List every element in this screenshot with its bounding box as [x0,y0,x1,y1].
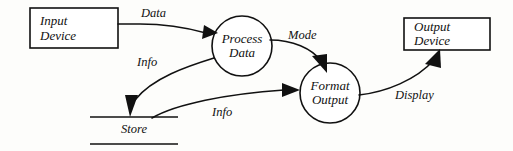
data-store-store[interactable]: Store [90,117,178,144]
process-format-output[interactable]: Format Output [300,63,360,123]
diagram-canvas: Input Device Output Device Process Data … [0,0,513,151]
flow-display-arrowhead [425,49,441,68]
process-process-data[interactable]: Process Data [212,16,272,76]
format-output-label-line2: Output [312,92,349,107]
flow-data[interactable]: Data [118,6,218,39]
process-data-label-line1: Process [221,31,263,46]
output-device-label-line2: Device [413,33,450,48]
flow-data-label: Data [140,6,166,20]
external-entity-input-device[interactable]: Input Device [30,8,118,48]
external-entity-output-device[interactable]: Output Device [404,18,490,50]
flow-mode-line [270,40,322,62]
flow-display-label: Display [394,88,434,102]
input-device-label-line1: Input [39,13,68,28]
flow-data-line [118,24,206,33]
process-data-label-line2: Data [228,45,256,60]
flow-info-to-store-label: Info [136,55,157,69]
flow-info-to-store[interactable]: Info [125,55,214,117]
input-device-label-line2: Device [39,28,76,43]
store-label: Store [121,122,147,136]
flow-info-to-store-arrowhead [125,95,138,117]
flow-info-from-store-label: Info [211,105,232,119]
flow-info-from-store-arrowhead [282,83,300,97]
output-device-label-line1: Output [414,19,451,34]
flow-mode-label: Mode [287,28,317,42]
data-flow-diagram: Input Device Output Device Process Data … [0,0,513,151]
flow-display[interactable]: Display [359,49,441,102]
format-output-label-line1: Format [310,78,350,93]
flow-info-from-store[interactable]: Info [152,83,300,119]
